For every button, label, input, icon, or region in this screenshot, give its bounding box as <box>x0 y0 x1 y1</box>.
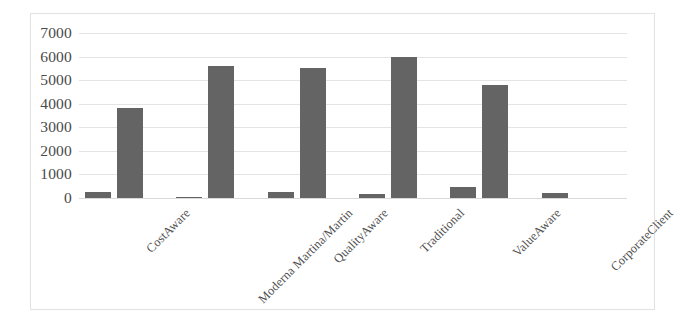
y-axis-tick-label: 6000 <box>40 48 72 66</box>
bar <box>208 66 234 198</box>
bar <box>482 85 508 198</box>
x-axis-tick-label: CostAware <box>143 206 193 256</box>
bar <box>542 193 568 198</box>
bar <box>117 108 143 198</box>
bar <box>359 194 385 198</box>
bar-group <box>262 33 353 198</box>
y-axis-tick-label: 1000 <box>40 165 72 183</box>
bar-group <box>353 33 444 198</box>
y-axis-tick-label: 2000 <box>40 142 72 160</box>
y-axis-tick-label: 4000 <box>40 95 72 113</box>
bar <box>176 197 202 198</box>
y-axis-tick-label: 7000 <box>40 24 72 42</box>
y-axis-tick-label: 3000 <box>40 118 72 136</box>
bar-group <box>444 33 535 198</box>
y-axis-tick-label: 5000 <box>40 71 72 89</box>
bar-group <box>79 33 170 198</box>
bar <box>300 68 326 198</box>
y-axis-tick-label: 0 <box>64 189 72 207</box>
bar <box>391 57 417 198</box>
axis-baseline <box>79 198 627 199</box>
chart-frame: 01000200030004000500060007000 CostAwareM… <box>30 13 655 310</box>
bar-group <box>536 33 627 198</box>
x-axis-tick-label: CorporateClient <box>608 206 677 275</box>
bar <box>450 187 476 198</box>
bar-group <box>170 33 261 198</box>
bar <box>268 192 294 198</box>
x-axis-tick-label: Traditional <box>417 206 467 256</box>
plot-area: 01000200030004000500060007000 CostAwareM… <box>79 33 627 198</box>
bar <box>85 192 111 198</box>
x-axis-tick-label: ValueAware <box>510 206 564 260</box>
